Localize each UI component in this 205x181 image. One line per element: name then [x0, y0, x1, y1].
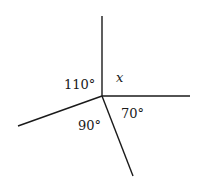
- angle-label-70: 70°: [121, 106, 144, 121]
- angle-label-x: x: [116, 70, 124, 85]
- angle-label-90: 90°: [78, 118, 101, 133]
- angle-label-110: 110°: [64, 77, 95, 92]
- angle-diagram: 110° x 70° 90°: [0, 0, 205, 181]
